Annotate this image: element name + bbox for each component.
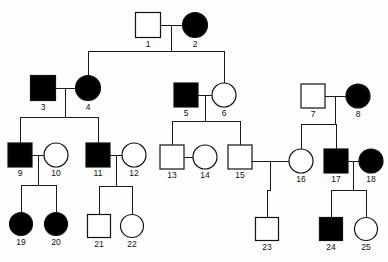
individual-symbol-9[interactable] (8, 143, 32, 167)
individual-label-23: 23 (262, 242, 272, 252)
individual-symbol-16[interactable] (289, 149, 313, 173)
individual-symbol-14[interactable] (193, 145, 217, 169)
individual-symbol-3[interactable] (31, 76, 56, 101)
pedigree-chart: 1234567891011121314151617181920212223242… (0, 0, 388, 262)
individual-label-9: 9 (18, 168, 23, 178)
individual-label-5: 5 (184, 108, 189, 118)
individual-symbol-5[interactable] (174, 83, 198, 107)
individual-symbol-18[interactable] (359, 149, 383, 173)
individual-symbol-19[interactable] (10, 213, 33, 236)
individual-symbol-4[interactable] (76, 76, 101, 101)
individual-symbol-7[interactable] (301, 84, 325, 108)
individual-label-3: 3 (41, 102, 46, 112)
individual-label-16: 16 (296, 174, 306, 184)
individual-symbol-1[interactable] (136, 13, 161, 38)
individual-symbol-21[interactable] (88, 215, 111, 238)
individual-label-4: 4 (86, 102, 91, 112)
individual-label-10: 10 (51, 168, 61, 178)
individual-label-15: 15 (235, 170, 245, 180)
individual-label-18: 18 (366, 174, 376, 184)
individual-label-7: 7 (311, 109, 316, 119)
individual-symbol-15[interactable] (228, 145, 252, 169)
individual-symbol-20[interactable] (45, 213, 68, 236)
individual-symbol-6[interactable] (212, 83, 236, 107)
individual-symbol-17[interactable] (324, 149, 348, 173)
individual-symbol-13[interactable] (160, 145, 184, 169)
individual-label-12: 12 (129, 168, 139, 178)
individual-label-2: 2 (193, 39, 198, 49)
connector-line-layer (20, 25, 366, 218)
pedigree-canvas: 1234567891011121314151617181920212223242… (0, 0, 388, 262)
individual-symbol-10[interactable] (44, 143, 68, 167)
individual-symbol-22[interactable] (121, 215, 144, 238)
individual-label-22: 22 (127, 239, 137, 249)
individual-symbol-12[interactable] (122, 143, 146, 167)
individual-symbol-11[interactable] (86, 143, 110, 167)
individual-symbol-23[interactable] (256, 218, 279, 241)
individual-label-8: 8 (356, 109, 361, 119)
individual-symbol-24[interactable] (320, 218, 343, 241)
individual-label-24: 24 (326, 242, 336, 252)
individual-label-20: 20 (51, 237, 61, 247)
individual-label-6: 6 (222, 108, 227, 118)
individual-label-14: 14 (200, 170, 210, 180)
individual-symbol-2[interactable] (183, 13, 208, 38)
individual-label-19: 19 (16, 237, 26, 247)
individual-label-13: 13 (167, 170, 177, 180)
individual-label-17: 17 (331, 174, 341, 184)
individual-symbol-8[interactable] (346, 84, 370, 108)
individual-label-1: 1 (146, 39, 151, 49)
individual-symbol-25[interactable] (355, 218, 378, 241)
individual-label-11: 11 (94, 168, 103, 178)
individual-label-25: 25 (361, 242, 371, 252)
individual-label-21: 21 (94, 239, 104, 249)
